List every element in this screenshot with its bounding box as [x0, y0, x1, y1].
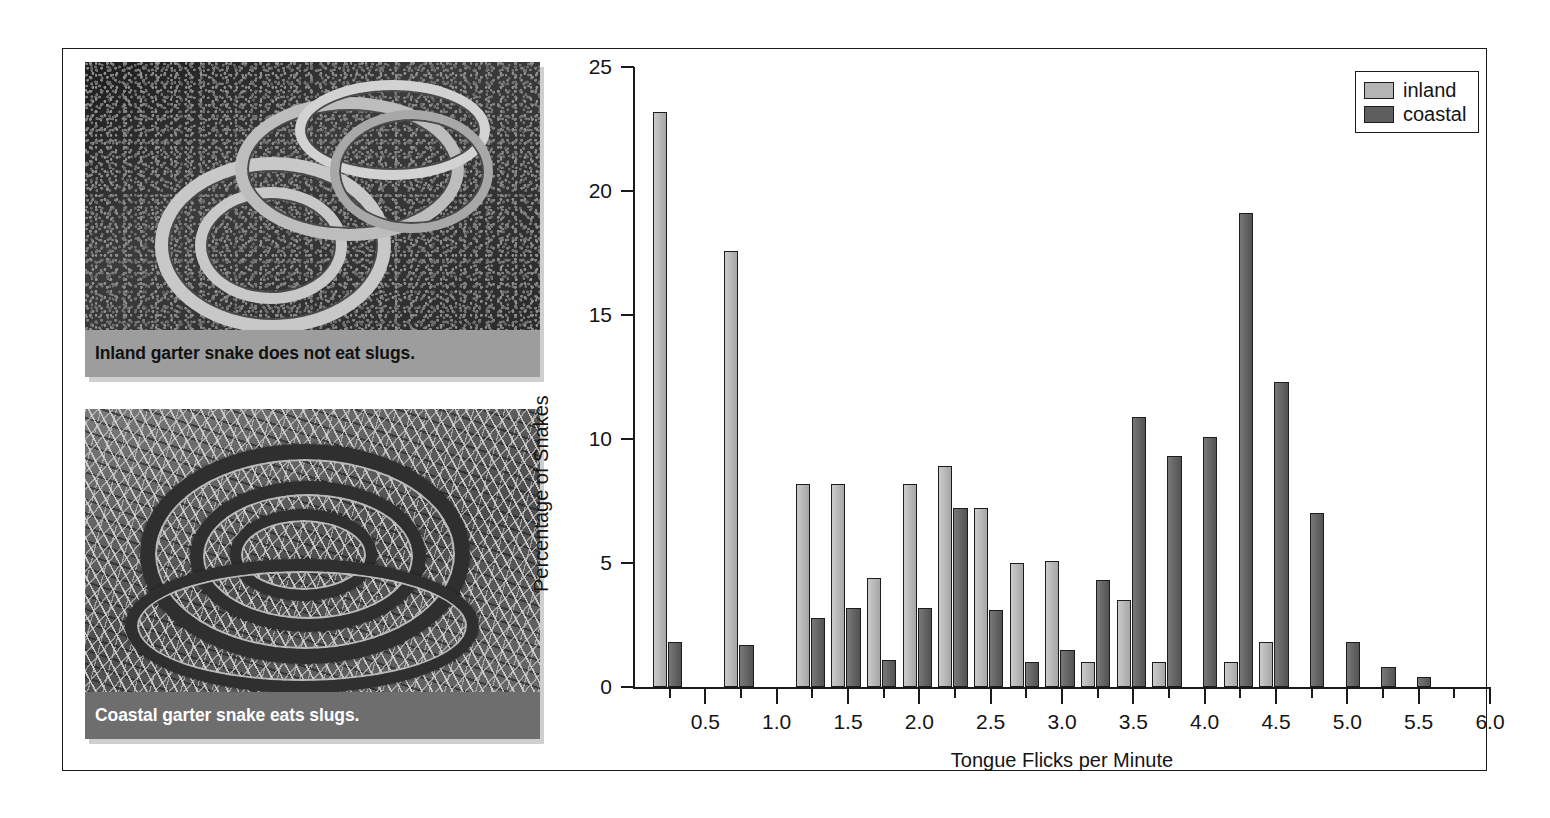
- y-tick-label: 25: [558, 56, 612, 77]
- bar-coastal-0.25: [668, 642, 682, 687]
- x-tick: [704, 689, 706, 704]
- x-tick-label: 4.0: [1170, 711, 1240, 732]
- bar-coastal-2.25: [953, 508, 967, 687]
- bar-coastal-1.25: [811, 618, 825, 687]
- bar-coastal-5.25: [1381, 667, 1395, 687]
- bar-coastal-5: [1346, 642, 1360, 687]
- y-tick-label: 5: [558, 552, 612, 573]
- bar-inland-3.75: [1152, 662, 1166, 687]
- x-tick-minor: [740, 689, 742, 698]
- x-tick-minor: [1097, 689, 1099, 698]
- bar-inland-4.25: [1224, 662, 1238, 687]
- y-tick-label: 10: [558, 428, 612, 449]
- x-tick: [1132, 689, 1134, 704]
- legend-swatch-coastal: [1364, 106, 1394, 123]
- bar-chart: 05101520250.51.01.52.02.53.03.54.04.55.0…: [63, 49, 1486, 770]
- bar-coastal-4.75: [1310, 513, 1324, 687]
- bar-inland-0.25: [653, 112, 667, 687]
- x-tick: [1061, 689, 1063, 704]
- x-tick-minor: [1239, 689, 1241, 698]
- legend-swatch-inland: [1364, 82, 1394, 99]
- bar-coastal-3: [1060, 650, 1074, 687]
- bar-inland-1.25: [796, 484, 810, 687]
- y-tick: [621, 562, 634, 564]
- y-tick: [621, 314, 634, 316]
- y-axis-title: Percentage of Snakes: [530, 395, 553, 592]
- x-tick-minor: [1168, 689, 1170, 698]
- y-tick: [621, 190, 634, 192]
- bar-coastal-2.5: [989, 610, 1003, 687]
- bar-coastal-3.5: [1132, 417, 1146, 687]
- bar-inland-2.25: [938, 466, 952, 687]
- bar-inland-3.5: [1117, 600, 1131, 687]
- x-tick: [918, 689, 920, 704]
- bar-coastal-4: [1203, 437, 1217, 687]
- x-tick-label: 2.5: [956, 711, 1026, 732]
- legend-label-coastal: coastal: [1403, 104, 1466, 124]
- x-tick: [1346, 689, 1348, 704]
- legend-item-coastal[interactable]: coastal: [1364, 102, 1466, 126]
- x-tick-minor: [669, 689, 671, 698]
- y-tick-label: 0: [558, 676, 612, 697]
- bar-coastal-1.5: [846, 608, 860, 687]
- x-tick-minor: [811, 689, 813, 698]
- chart-legend: inlandcoastal: [1355, 71, 1479, 133]
- x-tick-minor: [1382, 689, 1384, 698]
- x-tick-label: 2.0: [884, 711, 954, 732]
- y-tick: [621, 686, 634, 688]
- figure-frame: Inland garter snake does not eat slugs. …: [62, 48, 1487, 771]
- bar-coastal-3.25: [1096, 580, 1110, 687]
- bar-inland-4.5: [1259, 642, 1273, 687]
- y-axis: [633, 67, 635, 689]
- x-tick-label: 1.0: [742, 711, 812, 732]
- x-tick: [1418, 689, 1420, 704]
- bar-inland-3.25: [1081, 662, 1095, 687]
- bar-inland-3: [1045, 561, 1059, 687]
- bar-coastal-2: [918, 608, 932, 687]
- legend-label-inland: inland: [1403, 80, 1456, 100]
- x-tick-minor: [1025, 689, 1027, 698]
- x-tick: [990, 689, 992, 704]
- x-tick: [776, 689, 778, 704]
- bar-inland-2: [903, 484, 917, 687]
- bar-coastal-2.75: [1025, 662, 1039, 687]
- x-tick: [1489, 689, 1491, 704]
- x-tick-label: 0.5: [670, 711, 740, 732]
- y-tick-label: 20: [558, 180, 612, 201]
- x-tick-label: 3.5: [1098, 711, 1168, 732]
- x-tick-label: 3.0: [1027, 711, 1097, 732]
- x-tick-minor: [1453, 689, 1455, 698]
- bar-coastal-4.25: [1239, 213, 1253, 687]
- x-tick-label: 5.0: [1312, 711, 1382, 732]
- bar-coastal-5.5: [1417, 677, 1431, 687]
- x-tick-label: 4.5: [1241, 711, 1311, 732]
- x-tick-label: 5.5: [1384, 711, 1454, 732]
- x-axis-title: Tongue Flicks per Minute: [634, 749, 1490, 772]
- bar-inland-0.75: [724, 251, 738, 687]
- bar-inland-2.5: [974, 508, 988, 687]
- bar-coastal-1.75: [882, 660, 896, 687]
- y-tick-label: 15: [558, 304, 612, 325]
- y-tick: [621, 438, 634, 440]
- bar-coastal-0.75: [739, 645, 753, 687]
- x-tick: [847, 689, 849, 704]
- bar-inland-1.5: [831, 484, 845, 687]
- x-tick: [1204, 689, 1206, 704]
- x-tick-minor: [954, 689, 956, 698]
- x-tick-minor: [1311, 689, 1313, 698]
- bar-coastal-4.5: [1274, 382, 1288, 687]
- x-tick: [1275, 689, 1277, 704]
- legend-item-inland[interactable]: inland: [1364, 78, 1466, 102]
- bar-inland-1.75: [867, 578, 881, 687]
- y-tick: [621, 66, 634, 68]
- x-tick-label: 6.0: [1455, 711, 1525, 732]
- x-tick-label: 1.5: [813, 711, 883, 732]
- x-tick-minor: [883, 689, 885, 698]
- bar-coastal-3.75: [1167, 456, 1181, 687]
- bar-inland-2.75: [1010, 563, 1024, 687]
